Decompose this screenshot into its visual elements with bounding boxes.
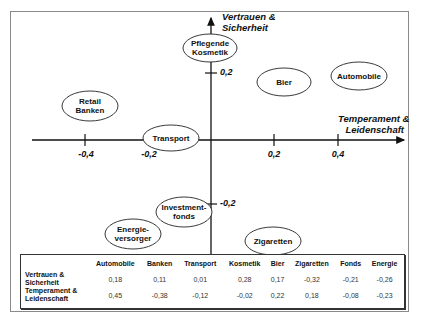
table-cell: 0,22 <box>267 287 289 303</box>
x-tick-label-p02: 0,2 <box>268 149 281 159</box>
row-header-line: Vertrauen & <box>25 271 87 279</box>
y-axis-title-line2: Sicherheit <box>222 22 276 33</box>
column-header: Automobile <box>89 260 142 271</box>
table-cell: -0,12 <box>178 287 223 303</box>
bubble-label-line: Banken <box>76 106 105 115</box>
bubble-label-zigaretten: Zigaretten <box>254 237 293 246</box>
bubble-label-line: fonds <box>162 212 207 221</box>
bubble-label-energie: Energie- versorger <box>115 225 152 243</box>
x-tick-label-m02: -0,2 <box>141 149 157 159</box>
bubble-label-line: Kosmetik <box>191 48 229 57</box>
bubble-label-fonds: Investment- fonds <box>162 203 207 221</box>
table-cell: 0,17 <box>267 271 289 287</box>
table-cell: 0,28 <box>223 271 267 287</box>
table-cell: 0,18 <box>288 287 335 303</box>
table-row: Vertrauen & Sicherheit 0,18 0,11 0,01 0,… <box>23 271 403 287</box>
table-cell: -0,23 <box>366 287 403 303</box>
table-corner <box>23 260 89 271</box>
x-axis-title: Temperament & Leidenschaft <box>338 113 404 135</box>
table-cell: 0,01 <box>178 271 223 287</box>
table-row: Temperament & Leidenschaft 0,45 -0,38 -0… <box>23 287 403 303</box>
bubble-label-line: Retail <box>76 97 105 106</box>
table-cell: 0,11 <box>142 271 178 287</box>
bubble-label-line: versorger <box>115 234 152 243</box>
bubble-label-automobile: Automobile <box>337 72 381 81</box>
column-header: Zigaretten <box>288 260 335 271</box>
column-header: Fonds <box>335 260 366 271</box>
row-header-line: Leidenschaft <box>25 295 87 303</box>
column-header: Bier <box>267 260 289 271</box>
data-table-box: Automobile Banken Transport Kosmetik Bie… <box>20 254 405 309</box>
x-tick-label-p04: 0,4 <box>332 149 345 159</box>
y-tick-label-m02: -0,2 <box>220 198 236 208</box>
x-axis-title-line1: Temperament & <box>338 113 404 124</box>
table-cell: -0,32 <box>288 271 335 287</box>
row-header: Vertrauen & Sicherheit <box>23 271 89 287</box>
y-axis-title-line1: Vertrauen & <box>222 11 276 22</box>
table-cell: -0,38 <box>142 287 178 303</box>
row-header-line: Sicherheit <box>25 279 87 287</box>
data-table: Automobile Banken Transport Kosmetik Bie… <box>23 260 403 303</box>
table-cell: -0,02 <box>223 287 267 303</box>
bubble-label-line: Energie- <box>115 225 152 234</box>
bubble-label-line: Investment- <box>162 203 207 212</box>
bubble-label-line: Transport <box>153 134 190 143</box>
table-cell: 0,18 <box>89 271 142 287</box>
bubble-label-bier: Bier <box>276 78 292 87</box>
y-axis-title: Vertrauen & Sicherheit <box>222 11 276 33</box>
row-header-line: Temperament & <box>25 287 87 295</box>
column-header: Banken <box>142 260 178 271</box>
bubble-label-line: Bier <box>276 78 292 87</box>
column-header: Kosmetik <box>223 260 267 271</box>
y-tick-label-p02: 0,2 <box>220 67 233 77</box>
row-header: Temperament & Leidenschaft <box>23 287 89 303</box>
table-cell: 0,45 <box>89 287 142 303</box>
table-cell: -0,21 <box>335 271 366 287</box>
column-header: Transport <box>178 260 223 271</box>
bubble-label-line: Automobile <box>337 72 381 81</box>
table-cell: -0,26 <box>366 271 403 287</box>
bubble-label-line: Pflegende <box>191 39 229 48</box>
bubble-label-line: Zigaretten <box>254 237 293 246</box>
column-header: Energie <box>366 260 403 271</box>
table-cell: -0,08 <box>335 287 366 303</box>
bubble-label-transport: Transport <box>153 134 190 143</box>
bubble-label-retail-banken: Retail Banken <box>76 97 105 115</box>
x-tick-label-m04: -0,4 <box>78 149 94 159</box>
x-axis-title-line2: Leidenschaft <box>338 124 404 135</box>
table-header-row: Automobile Banken Transport Kosmetik Bie… <box>23 260 403 271</box>
bubble-label-kosmetik: Pflegende Kosmetik <box>191 39 229 57</box>
